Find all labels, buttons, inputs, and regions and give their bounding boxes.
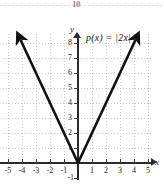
artifact-number: 10 — [72, 0, 80, 9]
artifact-dashed-rule — [0, 5, 164, 6]
function-curve — [0, 26, 164, 185]
top-cropped-artifact: 10 — [0, 0, 164, 12]
curve-right-branch — [78, 40, 135, 163]
figure-canvas: 10 -5-4-3-2-11234587654321-1 x y p(x) = … — [0, 0, 164, 185]
curve-left-branch — [21, 40, 78, 163]
plot-area: -5-4-3-2-11234587654321-1 x y p(x) = |2x… — [0, 26, 164, 185]
